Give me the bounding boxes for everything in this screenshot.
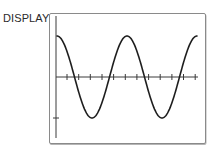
- x-axis: [56, 74, 198, 80]
- graph-plot: [0, 0, 218, 152]
